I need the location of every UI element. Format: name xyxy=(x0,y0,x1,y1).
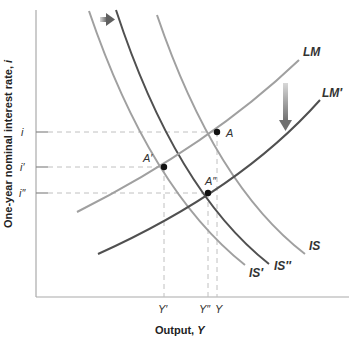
point-a-label: A xyxy=(225,127,233,139)
lm-curve xyxy=(77,60,299,212)
point-a-double-prime xyxy=(205,190,211,196)
point-a-prime-label: A′ xyxy=(142,152,153,164)
y-tick-i: i xyxy=(21,126,24,138)
point-a-double-prime-label: A″ xyxy=(204,175,217,187)
lm-shift-arrow-icon xyxy=(279,83,292,131)
x-tick-y-prime: Y′ xyxy=(158,303,168,315)
lm-label: LM xyxy=(303,45,321,59)
y-tick-i-prime: i′ xyxy=(20,161,25,173)
y-tick-marks xyxy=(36,132,48,193)
point-a-prime xyxy=(161,164,167,170)
is-double-prime-label: IS″ xyxy=(274,259,292,273)
is-double-prime-curve xyxy=(116,10,269,264)
guide-lines xyxy=(48,132,217,297)
is-shift-arrow-icon xyxy=(100,13,115,26)
is-prime-curve xyxy=(89,11,245,265)
y-axis-title: One-year nominal interest rate, i xyxy=(2,59,14,228)
x-tick-y-double-prime: Y″ xyxy=(199,303,211,315)
y-tick-i-double-prime: i″ xyxy=(19,187,26,199)
x-axis-title: Output, Y xyxy=(155,324,206,336)
x-tick-y: Y xyxy=(215,303,223,315)
is-label: IS xyxy=(309,239,320,253)
is-prime-label: IS′ xyxy=(249,266,264,280)
lm-prime-label: LM′ xyxy=(322,86,343,100)
is-lm-diagram: A A′ A″ LM LM′ IS IS″ IS′ i i′ i″ Y′ Y″ … xyxy=(0,0,349,343)
point-a xyxy=(214,129,220,135)
